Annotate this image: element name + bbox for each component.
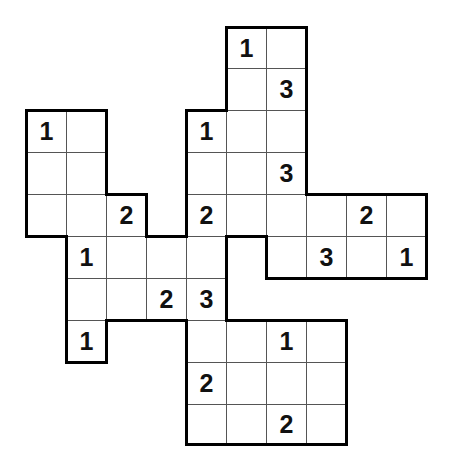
region-border xyxy=(225,319,268,322)
region-border xyxy=(305,319,348,322)
grid-cell[interactable] xyxy=(226,194,267,237)
region-border xyxy=(225,443,268,446)
region-border xyxy=(385,193,428,196)
puzzle-board: 13113222131231122 xyxy=(0,0,450,467)
region-border xyxy=(25,193,28,238)
region-border xyxy=(145,193,148,238)
region-border xyxy=(305,109,308,154)
grid-cell[interactable]: 1 xyxy=(266,320,307,363)
grid-cell[interactable] xyxy=(266,236,307,279)
region-border xyxy=(185,193,188,238)
region-border xyxy=(25,235,68,238)
region-border xyxy=(305,277,348,280)
region-border xyxy=(25,151,28,196)
region-border xyxy=(225,26,268,29)
region-border xyxy=(225,235,228,280)
region-border xyxy=(305,151,308,196)
region-border xyxy=(185,443,228,446)
grid-cell[interactable] xyxy=(186,152,227,195)
grid-cell[interactable] xyxy=(66,194,107,237)
region-border xyxy=(265,277,308,280)
grid-cell[interactable] xyxy=(226,404,267,445)
grid-cell[interactable] xyxy=(226,362,267,405)
grid-cell[interactable] xyxy=(306,362,347,405)
grid-cell[interactable]: 1 xyxy=(226,27,267,69)
region-border xyxy=(345,403,348,446)
region-border xyxy=(385,277,428,280)
grid-cell[interactable]: 1 xyxy=(66,320,107,363)
grid-cell[interactable] xyxy=(66,110,107,153)
grid-cell[interactable]: 2 xyxy=(146,278,187,321)
grid-cell[interactable]: 3 xyxy=(306,236,347,279)
grid-cell[interactable] xyxy=(266,27,307,69)
grid-cell[interactable] xyxy=(66,278,107,321)
region-border xyxy=(345,193,388,196)
region-border xyxy=(225,235,268,238)
region-border xyxy=(305,26,308,70)
region-border xyxy=(345,277,388,280)
grid-cell[interactable] xyxy=(26,152,67,195)
grid-cell[interactable]: 2 xyxy=(346,194,387,237)
region-border xyxy=(185,403,188,446)
grid-cell[interactable] xyxy=(186,236,227,279)
region-border xyxy=(105,193,148,196)
grid-cell[interactable]: 3 xyxy=(186,278,227,321)
region-border xyxy=(65,109,108,112)
region-border xyxy=(345,361,348,406)
grid-cell[interactable] xyxy=(306,404,347,445)
grid-cell[interactable] xyxy=(346,236,387,279)
region-border xyxy=(105,319,148,322)
region-border xyxy=(265,443,308,446)
grid-cell[interactable] xyxy=(266,194,307,237)
region-border xyxy=(425,235,428,280)
grid-cell[interactable] xyxy=(306,194,347,237)
region-border xyxy=(265,26,308,29)
grid-cell[interactable] xyxy=(226,320,267,363)
region-border xyxy=(305,193,348,196)
grid-cell[interactable]: 1 xyxy=(186,110,227,153)
region-border xyxy=(345,319,348,364)
region-border xyxy=(305,67,308,112)
region-border xyxy=(65,361,108,364)
grid-cell[interactable] xyxy=(146,236,187,279)
grid-cell[interactable] xyxy=(26,194,67,237)
region-border xyxy=(145,319,188,322)
grid-cell[interactable] xyxy=(226,152,267,195)
grid-cell[interactable] xyxy=(106,278,147,321)
grid-cell[interactable] xyxy=(266,362,307,405)
grid-cell[interactable]: 3 xyxy=(266,152,307,195)
grid-cell[interactable] xyxy=(106,236,147,279)
grid-cell[interactable] xyxy=(226,110,267,153)
region-border xyxy=(265,319,308,322)
region-border xyxy=(105,151,108,196)
region-border xyxy=(145,235,188,238)
region-border xyxy=(225,67,228,112)
grid-cell[interactable] xyxy=(66,152,107,195)
region-border xyxy=(25,109,28,154)
region-border xyxy=(425,193,428,238)
grid-cell[interactable] xyxy=(386,194,427,237)
grid-cell[interactable]: 3 xyxy=(266,68,307,111)
region-border xyxy=(25,109,68,112)
grid-cell[interactable] xyxy=(306,320,347,363)
grid-cell[interactable]: 2 xyxy=(266,404,307,445)
region-border xyxy=(105,109,108,154)
region-border xyxy=(105,319,108,364)
region-border xyxy=(185,109,188,154)
grid-cell[interactable] xyxy=(186,404,227,445)
grid-cell[interactable]: 2 xyxy=(186,194,227,237)
region-border xyxy=(65,235,68,280)
region-border xyxy=(185,319,188,364)
grid-cell[interactable] xyxy=(226,68,267,111)
grid-cell[interactable]: 2 xyxy=(106,194,147,237)
region-border xyxy=(225,26,228,70)
region-border xyxy=(225,277,228,322)
region-border xyxy=(185,361,188,406)
grid-cell[interactable]: 2 xyxy=(186,362,227,405)
region-border xyxy=(185,151,188,196)
grid-cell[interactable] xyxy=(266,110,307,153)
grid-cell[interactable]: 1 xyxy=(26,110,67,153)
grid-cell[interactable]: 1 xyxy=(66,236,107,279)
grid-cell[interactable] xyxy=(186,320,227,363)
grid-cell[interactable]: 1 xyxy=(386,236,427,279)
